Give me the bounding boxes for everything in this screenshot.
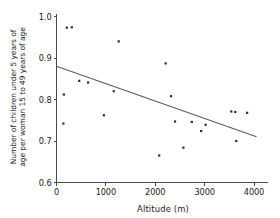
data-point	[170, 95, 172, 97]
y-tick-label: 0.8	[39, 95, 52, 105]
y-tick-label: 1.0	[39, 12, 52, 22]
x-tick-label: 2000	[145, 187, 165, 197]
axes-group	[57, 14, 269, 183]
data-point	[235, 140, 237, 142]
y-axis-label-line-1: Number of children under 5 years of	[9, 29, 18, 164]
data-point	[182, 147, 184, 149]
y-tick-label: 0.9	[39, 53, 52, 63]
data-point	[234, 111, 236, 113]
data-point	[246, 112, 248, 114]
x-tick-label: 3000	[194, 187, 214, 197]
x-tick-label: 4000	[244, 187, 264, 197]
data-point	[174, 120, 176, 122]
data-point	[205, 124, 207, 126]
data-point	[200, 130, 202, 132]
data-point	[230, 110, 232, 112]
chart-canvas: Number of children under 5 years of age …	[0, 0, 280, 218]
x-tick-label: 1000	[96, 187, 116, 197]
data-point	[113, 90, 115, 92]
y-axis-ticks: 0.60.70.80.91.0	[39, 12, 57, 188]
y-axis-label-line-2: age per woman 15 to 49 years of age	[18, 27, 27, 167]
data-point	[158, 154, 160, 156]
regression-line	[57, 66, 257, 137]
scatter-plot-figure: Number of children under 5 years of age …	[0, 0, 280, 218]
data-point	[165, 62, 167, 64]
data-point	[71, 26, 73, 28]
x-tick-label: 0	[54, 187, 59, 197]
x-axis-ticks: 01000200030004000	[54, 183, 264, 197]
data-point	[63, 93, 65, 95]
data-point	[87, 81, 89, 83]
data-point	[191, 121, 193, 123]
data-point	[62, 122, 64, 124]
y-tick-label: 0.7	[39, 136, 52, 146]
y-tick-label: 0.6	[39, 178, 52, 188]
y-axis-label-group: Number of children under 5 years of age …	[9, 27, 27, 167]
data-point	[66, 27, 68, 29]
data-point	[118, 40, 120, 42]
x-axis-label: Altitude (m)	[137, 204, 189, 214]
data-points-group	[62, 26, 248, 156]
data-point	[103, 114, 105, 116]
data-point	[78, 80, 80, 82]
